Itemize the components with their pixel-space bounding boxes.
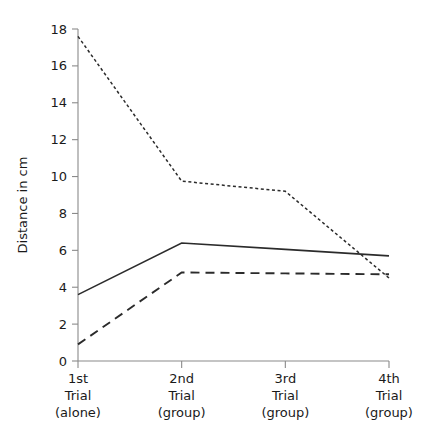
y-tick-label: 14 (50, 95, 67, 110)
x-tick-label: 3rdTrial(group) (261, 371, 309, 420)
y-tick-label: 2 (59, 317, 67, 332)
y-axis-title: Distance in cm (15, 157, 30, 254)
series-group (78, 36, 389, 344)
line-chart: 024681012141618 1stTrial(alone)2ndTrial(… (0, 0, 422, 437)
y-tick-label: 12 (50, 132, 67, 147)
y-tick-label: 4 (59, 280, 67, 295)
x-tick-label: 1stTrial(alone) (55, 371, 101, 420)
dashed-series (78, 272, 389, 344)
y-tick-label: 18 (50, 22, 67, 37)
y-tick-label: 10 (50, 169, 67, 184)
y-tick-label: 16 (50, 58, 67, 73)
x-tick-group: 1stTrial(alone)2ndTrial(group)3rdTrial(g… (55, 361, 413, 420)
x-tick-label: 4thTrial(group) (365, 371, 413, 420)
y-tick-label: 8 (59, 206, 67, 221)
dotted-series (78, 36, 389, 278)
x-tick-label: 2ndTrial(group) (158, 371, 206, 420)
y-tick-label: 0 (59, 354, 67, 369)
y-tick-group: 024681012141618 (50, 22, 78, 369)
x-axis: 1stTrial(alone)2ndTrial(group)3rdTrial(g… (55, 361, 413, 420)
y-tick-label: 6 (59, 243, 67, 258)
chart-canvas: 024681012141618 1stTrial(alone)2ndTrial(… (0, 0, 422, 437)
solid-series (78, 243, 389, 295)
y-axis: 024681012141618 (50, 22, 78, 369)
